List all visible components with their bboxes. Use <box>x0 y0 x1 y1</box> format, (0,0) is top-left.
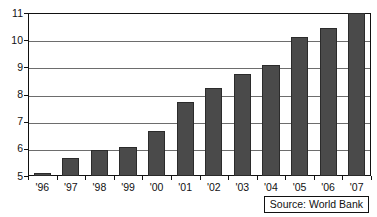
bar-96 <box>34 173 51 176</box>
bar-03 <box>234 74 251 176</box>
x-tick-mark-11 <box>342 176 343 180</box>
bar-05 <box>291 37 308 176</box>
x-tick-mark-5 <box>171 176 172 180</box>
x-tick-mark-6 <box>200 176 201 180</box>
x-tick-label-00: '00 <box>142 182 171 193</box>
x-tick-label-03: '03 <box>228 182 257 193</box>
bar-02 <box>205 88 222 176</box>
source-note: Source: World Bank <box>264 196 369 213</box>
x-tick-mark-7 <box>228 176 229 180</box>
bar-01 <box>177 102 194 176</box>
x-tick-label-99: '99 <box>114 182 143 193</box>
y-tick-label-11: 11 <box>4 8 23 19</box>
y-tick-label-8: 8 <box>4 89 23 100</box>
x-tick-label-06: '06 <box>314 182 343 193</box>
x-tick-mark-2 <box>85 176 86 180</box>
x-tick-label-01: '01 <box>171 182 200 193</box>
x-tick-label-07: '07 <box>342 182 371 193</box>
bar-97 <box>62 158 79 176</box>
x-tick-mark-3 <box>114 176 115 180</box>
y-tick-label-10: 10 <box>4 35 23 46</box>
x-tick-mark-8 <box>257 176 258 180</box>
x-tick-mark-4 <box>142 176 143 180</box>
x-tick-mark-10 <box>314 176 315 180</box>
bar-04 <box>262 65 279 176</box>
bar-99 <box>119 147 136 176</box>
y-tick-label-9: 9 <box>4 62 23 73</box>
x-tick-label-98: '98 <box>85 182 114 193</box>
x-tick-label-96: '96 <box>28 182 57 193</box>
y-tick-label-6: 6 <box>4 143 23 154</box>
x-tick-mark-end <box>371 176 372 180</box>
bar-00 <box>148 131 165 176</box>
bar-07 <box>348 13 365 176</box>
bar-series <box>28 13 371 176</box>
y-tick-label-5: 5 <box>4 171 23 182</box>
x-tick-label-05: '05 <box>285 182 314 193</box>
x-tick-label-04: '04 <box>257 182 286 193</box>
bar-06 <box>320 28 337 176</box>
x-tick-mark-1 <box>57 176 58 180</box>
x-tick-label-97: '97 <box>57 182 86 193</box>
x-tick-mark-0 <box>28 176 29 180</box>
bar-chart: 567891011 '96'97'98'99'00'01'02'03'04'05… <box>0 0 377 217</box>
y-tick-label-7: 7 <box>4 116 23 127</box>
bar-98 <box>91 150 108 176</box>
x-tick-label-02: '02 <box>200 182 229 193</box>
x-tick-mark-9 <box>285 176 286 180</box>
